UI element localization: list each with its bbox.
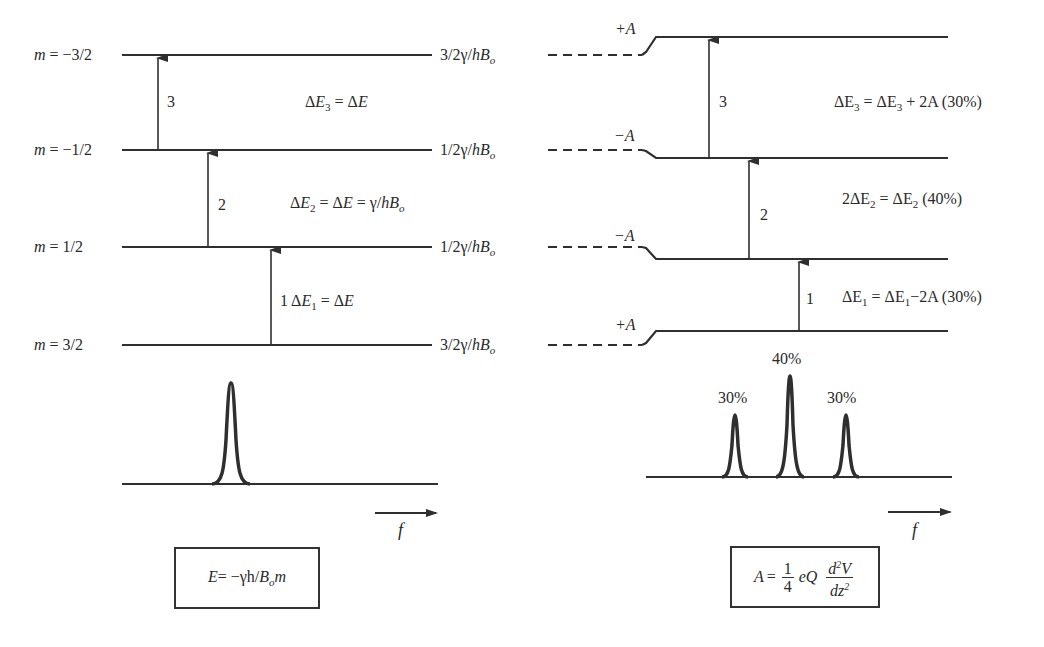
shift-label-minus-A-lower: −A <box>614 227 635 245</box>
right-dashed-levels <box>548 55 642 345</box>
shift-label-plus-A-top: +A <box>615 20 636 38</box>
spectrum-peak-30-left <box>722 415 748 477</box>
transition-2-equation: ΔE2 = ΔE = γ/hBo <box>290 194 405 217</box>
peak-label-left: 30% <box>718 389 747 407</box>
level-label-m-plus-3-2: m = 3/2 <box>34 336 83 354</box>
energy-label-3-2-lower: 3/2γ/hBo <box>440 336 495 359</box>
shift-label-minus-A-upper: −A <box>614 127 635 145</box>
level-minus-A-lower <box>642 247 948 259</box>
transition-3-equation: ΔE3 = ΔE <box>305 93 368 116</box>
level-minus-A-upper <box>642 150 948 158</box>
peak-label-center: 40% <box>772 350 801 368</box>
energy-label-3-2: 3/2γ/hBo <box>440 46 495 69</box>
transition-number-2: 2 <box>218 196 226 214</box>
level-plus-A-bottom <box>642 331 948 345</box>
fraction-second-derivative: d2V dz2 <box>826 556 853 599</box>
energy-label-1-2-lower: 1/2γ/hBo <box>440 238 495 261</box>
right-spectrum <box>646 376 952 512</box>
spectrum-peak <box>212 383 250 484</box>
level-plus-A-top <box>642 37 948 55</box>
spectrum-peak-30-right <box>833 415 859 477</box>
level-label-m-minus-1-2: m = −1/2 <box>34 141 92 159</box>
transition-number-1-right: 1 <box>806 290 814 308</box>
fraction-one-quarter: 1 4 <box>782 560 794 595</box>
transition-number-2-right: 2 <box>760 206 768 224</box>
transition-3-equation-right: ΔE3 = ΔE3 + 2A (30%) <box>834 93 982 116</box>
shift-label-plus-A-bottom: +A <box>615 316 636 334</box>
transition-number-3: 3 <box>167 93 175 111</box>
energy-formula-box: E= −γh/Bom <box>174 547 320 609</box>
right-transition-arrows <box>709 40 799 331</box>
peak-label-right: 30% <box>827 389 856 407</box>
frequency-axis-label-right: f <box>912 521 917 539</box>
quadrupole-formula-box: A = 1 4 eQ d2V dz2 <box>730 546 880 608</box>
left-spectrum <box>122 383 438 513</box>
energy-formula: E= −γh/Bom <box>208 568 286 588</box>
transition-1-equation-right: ΔE1 = ΔE1−2A (30%) <box>842 288 982 311</box>
level-label-m-plus-1-2: m = 1/2 <box>34 238 83 256</box>
spectrum-peak-40 <box>776 376 804 477</box>
level-label-m-minus-3-2: m = −3/2 <box>34 46 92 64</box>
transition-2-equation-right: 2ΔE2 = ΔE2 (40%) <box>842 190 962 213</box>
frequency-axis-label: f <box>398 521 403 539</box>
transition-number-3-right: 3 <box>719 93 727 111</box>
quadrupole-formula: A = 1 4 eQ d2V dz2 <box>754 556 856 599</box>
energy-label-1-2-upper: 1/2γ/hBo <box>440 141 495 164</box>
transition-1-equation: 1 ΔE1 = ΔE <box>280 292 354 315</box>
